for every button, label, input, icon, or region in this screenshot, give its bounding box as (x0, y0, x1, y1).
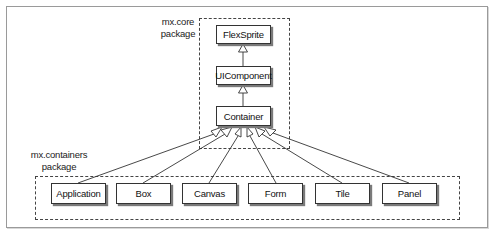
class-container: Container (216, 106, 271, 126)
arrowhead-uicomponent (239, 85, 248, 93)
class-box: Box (116, 183, 171, 204)
class-form-label: Form (265, 188, 286, 199)
arrowhead-flexsprite (239, 44, 248, 52)
class-flexsprite: FlexSprite (216, 25, 271, 44)
class-form: Form (248, 183, 303, 204)
class-panel-label: Panel (398, 188, 421, 199)
class-container-label: Container (224, 111, 263, 122)
class-uicomponent-label: UIComponent (215, 70, 271, 81)
class-box-label: Box (136, 188, 152, 199)
class-canvas: Canvas (182, 183, 237, 204)
edge-canvas-container (209, 136, 238, 183)
edge-application-container (78, 134, 214, 183)
class-panel: Panel (382, 183, 437, 204)
class-canvas-label: Canvas (194, 188, 225, 199)
arrowhead-canvas (235, 127, 241, 137)
class-flexsprite-label: FlexSprite (223, 29, 264, 40)
arrowhead-panel (264, 127, 276, 136)
arrowhead-tile (255, 127, 265, 137)
class-application: Application (51, 183, 106, 204)
edge-box-container (143, 134, 225, 183)
edge-form-container (250, 136, 276, 183)
class-application-label: Application (56, 188, 100, 199)
arrowhead-form (247, 127, 253, 137)
arrowhead-application (211, 127, 222, 137)
class-tile-label: Tile (335, 188, 349, 199)
edge-tile-container (262, 134, 342, 183)
edge-panel-container (273, 133, 409, 183)
class-uicomponent: UIComponent (216, 66, 271, 85)
class-tile: Tile (315, 183, 370, 204)
